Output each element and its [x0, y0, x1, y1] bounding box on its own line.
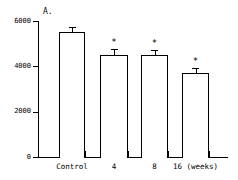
- y-axis-tick-label: 0: [27, 153, 31, 161]
- significance-asterisk: *: [149, 39, 161, 48]
- x-axis-tick: [85, 151, 86, 157]
- x-axis-tick: [128, 151, 129, 157]
- x-axis-tick-label: 16 (weeks): [161, 162, 231, 171]
- bar: [182, 73, 209, 158]
- y-axis-tick-label: 2000: [14, 107, 31, 115]
- y-axis-tick-label: 6000: [14, 17, 31, 25]
- x-axis-tick: [209, 151, 210, 157]
- error-bar-cap: [151, 50, 158, 51]
- y-axis-tick-label-wrap: 6000: [0, 17, 31, 26]
- panel-label: A.: [43, 7, 53, 16]
- bar: [100, 55, 128, 158]
- bar: [141, 55, 168, 158]
- y-axis-tick-label-wrap: 4000: [0, 62, 31, 71]
- significance-asterisk: *: [190, 57, 202, 66]
- error-bar-cap: [192, 68, 199, 69]
- significance-asterisk: *: [108, 38, 120, 47]
- y-axis-line: [38, 21, 39, 158]
- y-axis-tick: [33, 21, 38, 22]
- y-axis-tick-label: 4000: [14, 62, 31, 70]
- error-bar-cap: [69, 27, 76, 28]
- bar-chart-figure: A. 6000400020000 *** Control4816 (weeks): [0, 0, 238, 180]
- y-axis-tick: [33, 66, 38, 67]
- y-axis-tick-label-wrap: 0: [0, 153, 31, 162]
- bar: [59, 32, 85, 158]
- y-axis-tick-label-wrap: 2000: [0, 107, 31, 116]
- error-bar-cap: [111, 49, 118, 50]
- y-axis-tick: [33, 112, 38, 113]
- x-axis-tick: [168, 151, 169, 157]
- y-axis-tick: [33, 157, 38, 158]
